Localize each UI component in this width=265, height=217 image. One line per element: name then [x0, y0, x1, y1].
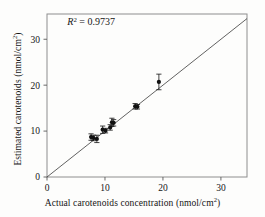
r-squared-value: = 0.9737 [77, 16, 115, 27]
data-point [135, 105, 139, 109]
scatter-plot: 01020300102030 R2 = 0.9737 [0, 0, 265, 217]
r-squared-symbol: R [66, 16, 73, 27]
x-axis-title-text: Actual carotenoids concentration (nmol/c… [45, 198, 214, 208]
x-axis-title-tail: ) [217, 198, 220, 208]
y-tick-label: 30 [31, 35, 41, 45]
y-axis-title: Estimated carotenoids (nmol/cm2) [11, 9, 23, 189]
data-point [157, 80, 161, 84]
data-point [108, 125, 112, 129]
y-axis-title-tail: ) [13, 32, 23, 35]
figure-container: 01020300102030 R2 = 0.9737 Actual carote… [0, 0, 265, 217]
y-axis-title-wrapper: Estimated carotenoids (nmol/cm2) [11, 9, 25, 189]
r-squared-annotation: R2 = 0.9737 [66, 16, 115, 28]
data-point [95, 137, 99, 141]
y-tick-label: 10 [31, 126, 41, 136]
y-tick-label: 20 [31, 81, 41, 91]
y-tick-label: 0 [35, 172, 40, 182]
error-bars [88, 74, 161, 142]
y-axis-title-superscript: 2 [11, 36, 18, 39]
x-axis-title: Actual carotenoids concentration (nmol/c… [0, 196, 265, 208]
identity-line [47, 19, 247, 177]
data-point [112, 121, 116, 125]
x-tick-label: 0 [45, 183, 50, 193]
r-squared-text: R2 = 0.9737 [66, 16, 115, 28]
x-tick-label: 10 [100, 183, 110, 193]
x-tick-label: 30 [216, 183, 226, 193]
data-point [103, 129, 107, 133]
plot-frame [47, 14, 247, 177]
data-points [89, 80, 161, 141]
x-tick-label: 20 [158, 183, 168, 193]
y-axis-title-text: Estimated carotenoids (nmol/cm [13, 39, 23, 165]
